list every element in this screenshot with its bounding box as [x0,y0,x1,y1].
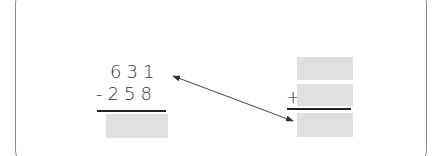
double-arrow-icon [0,0,444,156]
